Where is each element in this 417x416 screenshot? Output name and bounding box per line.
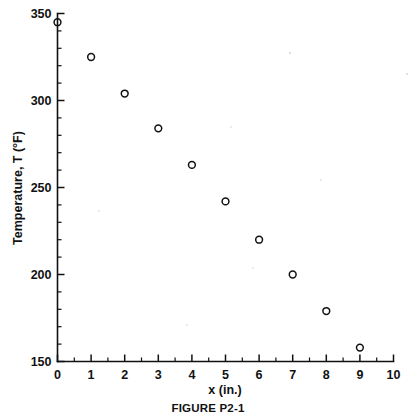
x-tick-label: 3 (155, 368, 162, 382)
plot-background (0, 0, 417, 416)
y-axis-label: Temperature, T (°F) (11, 131, 25, 245)
x-tick-label: 4 (188, 368, 195, 382)
y-tick-label: 200 (31, 268, 52, 282)
figure-caption: FIGURE P2-1 (171, 402, 245, 414)
x-tick-label: 10 (387, 368, 401, 382)
figure-container: 150200250300350 012345678910 x = 0, T = … (0, 0, 417, 416)
y-tick-label: 150 (31, 355, 52, 369)
x-tick-label: 7 (289, 368, 296, 382)
x-tick-label: 0 (54, 368, 61, 382)
x-tick-label: 6 (256, 368, 263, 382)
x-axis-label: x (in.) (208, 383, 241, 397)
scatter-plot: 150200250300350 012345678910 x = 0, T = … (0, 0, 417, 416)
y-tick-label: 300 (31, 94, 52, 108)
x-tick-label: 5 (222, 368, 229, 382)
x-tick-label: 1 (88, 368, 95, 382)
x-tick-label: 9 (356, 368, 363, 382)
x-tick-label: 8 (323, 368, 330, 382)
x-tick-label: 2 (121, 368, 128, 382)
y-tick-label: 350 (31, 7, 52, 21)
y-tick-label: 250 (31, 181, 52, 195)
